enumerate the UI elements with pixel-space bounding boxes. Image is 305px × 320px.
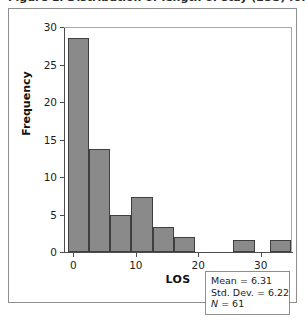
y-axis-tick [60, 65, 64, 66]
statistics-box: Mean = 6.31 Std. Dev. = 6.22 N = 61 [205, 271, 290, 315]
y-axis-title: Frequency [20, 49, 33, 159]
y-axis-tick-label: 30 [35, 22, 57, 32]
x-axis-tick [198, 253, 199, 257]
y-axis-tick [60, 140, 64, 141]
plot-top-rule [64, 27, 292, 28]
y-axis-tick [60, 252, 64, 253]
y-axis-tick-labels: 051015202530 [29, 9, 57, 302]
y-axis-tick-label: 20 [35, 97, 57, 107]
figure-caption-text: Figure 1. Distribution of length of stay… [8, 0, 305, 4]
y-axis-tick [60, 215, 64, 216]
y-axis-tick-label: 15 [35, 135, 57, 145]
x-axis-tick-label: 0 [58, 259, 88, 271]
stat-mean: Mean = 6.31 [211, 275, 284, 287]
x-axis-tick [73, 253, 74, 257]
histogram-bar [110, 215, 131, 253]
figure-frame: 051015202530 Frequency 0102030 LOS Mean … [8, 8, 297, 303]
stat-n-value: = 61 [218, 298, 244, 309]
figure-caption-strip: Figure 1. Distribution of length of stay… [0, 0, 305, 7]
x-axis-tick [261, 253, 262, 257]
stat-stddev: Std. Dev. = 6.22 [211, 287, 284, 299]
histogram-bar [270, 240, 291, 252]
y-axis-tick-label: 10 [35, 172, 57, 182]
histogram-bar [153, 227, 174, 253]
y-axis-tick-label: 25 [35, 60, 57, 70]
histogram-bar [233, 240, 254, 252]
plot-area [64, 27, 292, 252]
x-axis-tick-label: 10 [121, 259, 151, 271]
y-axis-tick-label: 0 [35, 247, 57, 257]
x-axis-tick-label: 30 [246, 259, 276, 271]
histogram-bar [131, 197, 152, 252]
y-axis-tick [60, 177, 64, 178]
histogram-bar [89, 149, 110, 253]
stat-n: N = 61 [211, 298, 284, 310]
y-axis-tick [60, 102, 64, 103]
y-axis-tick [60, 27, 64, 28]
histogram-bar [174, 237, 195, 252]
x-axis-tick-label: 20 [183, 259, 213, 271]
histogram-bar [68, 38, 89, 252]
y-axis-tick-label: 5 [35, 210, 57, 220]
x-axis-tick [136, 253, 137, 257]
plot-right-rule [291, 27, 292, 252]
x-axis-line [64, 252, 293, 253]
